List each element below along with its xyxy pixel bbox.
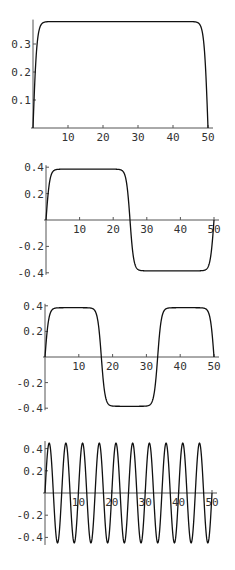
y-tick-label: 0.4 [23, 300, 43, 313]
x-tick-label: 20 [96, 131, 109, 144]
charts-figure: 10203040500.10.20.3 10203040500.40.2-0.2… [0, 0, 235, 570]
x-tick-label: 20 [107, 223, 120, 236]
data-curve [33, 22, 208, 128]
x-tick-label: 50 [207, 360, 220, 373]
y-tick-label: 0.2 [11, 66, 31, 79]
x-tick-label: 50 [201, 131, 214, 144]
y-tick-label: 0.2 [23, 325, 43, 338]
x-tick-label: 30 [140, 223, 153, 236]
x-tick-label: 10 [72, 360, 85, 373]
y-tick-label: 0.2 [24, 188, 44, 201]
x-tick-label: 30 [131, 131, 144, 144]
y-tick-label: 0.2 [23, 465, 43, 478]
x-tick-label: 10 [61, 131, 74, 144]
y-tick-label: -0.4 [17, 402, 44, 415]
y-tick-label: 0.3 [11, 38, 31, 51]
x-tick-label: 40 [174, 223, 187, 236]
y-tick-label: 0.4 [24, 161, 44, 174]
chart-panel-4: 10203040500.40.2-0.2-0.4 [17, 441, 219, 545]
chart-panel-3: 10203040500.40.2-0.2-0.4 [17, 300, 221, 415]
chart-panel-1: 10203040500.10.20.3 [11, 20, 215, 144]
x-tick-label: 20 [106, 360, 119, 373]
y-tick-label: -0.4 [17, 531, 44, 544]
x-tick-label: 40 [166, 131, 179, 144]
chart-panel-2: 10203040500.40.2-0.2-0.4 [18, 161, 221, 280]
x-tick-label: 30 [140, 360, 153, 373]
y-tick-label: -0.2 [18, 240, 45, 253]
y-tick-label: -0.2 [17, 509, 44, 522]
y-tick-label: 0.1 [11, 94, 31, 107]
x-tick-label: 40 [174, 360, 187, 373]
y-tick-label: -0.2 [17, 377, 44, 390]
y-tick-label: 0.4 [23, 443, 43, 456]
data-curve [45, 443, 212, 543]
x-tick-label: 10 [73, 223, 86, 236]
y-tick-label: -0.4 [18, 267, 45, 280]
